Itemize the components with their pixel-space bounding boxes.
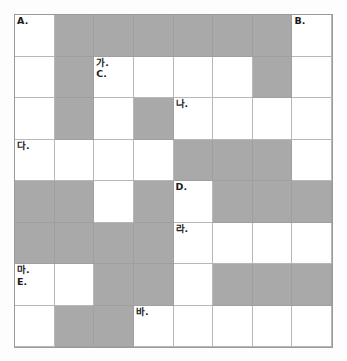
clue-number-label: C. xyxy=(96,68,107,80)
grid-cell-open[interactable] xyxy=(94,140,134,182)
grid-cell-block xyxy=(94,264,134,306)
grid-cell-open[interactable] xyxy=(213,57,253,99)
grid-cell-open[interactable] xyxy=(292,306,332,348)
grid-cell-block xyxy=(55,306,95,348)
grid-cell-open[interactable] xyxy=(213,223,253,265)
grid-cell-open[interactable]: 마.E. xyxy=(15,264,55,306)
grid-cell-open[interactable] xyxy=(15,98,55,140)
grid-cell-open[interactable]: D. xyxy=(174,181,214,223)
grid-cell-open[interactable] xyxy=(253,98,293,140)
grid-cell-block xyxy=(55,57,95,99)
cell-label-group: 라. xyxy=(176,223,189,235)
grid-cell-open[interactable] xyxy=(55,140,95,182)
grid-cell-block xyxy=(213,181,253,223)
grid-cell-block xyxy=(253,15,293,57)
grid-cell-open[interactable]: 나. xyxy=(174,98,214,140)
grid-cell-block xyxy=(94,223,134,265)
grid-cell-block xyxy=(15,181,55,223)
grid-cell-block xyxy=(213,15,253,57)
clue-number-label: B. xyxy=(294,15,305,27)
grid-cell-block xyxy=(174,140,214,182)
clue-number-label: A. xyxy=(17,15,28,27)
grid-cell-open[interactable] xyxy=(292,140,332,182)
grid-cell-open[interactable] xyxy=(292,223,332,265)
crossword-grid: A.B.가.C.나.다.D.라.마.E.바. xyxy=(14,14,333,348)
clue-number-label: 가. xyxy=(96,57,109,69)
grid-cell-open[interactable] xyxy=(174,264,214,306)
cell-label-group: 마.E. xyxy=(17,264,30,287)
grid-cell-block xyxy=(94,306,134,348)
grid-cell-block xyxy=(134,223,174,265)
grid-cell-open[interactable] xyxy=(292,57,332,99)
cell-label-group: 바. xyxy=(136,306,149,318)
cell-label-group: D. xyxy=(176,181,188,193)
cell-label-group: 다. xyxy=(17,140,30,152)
cell-label-group: 나. xyxy=(176,98,189,110)
grid-cell-block xyxy=(253,264,293,306)
grid-cell-block xyxy=(55,181,95,223)
grid-cell-open[interactable] xyxy=(174,57,214,99)
clue-number-label: 다. xyxy=(17,140,30,152)
grid-cell-open[interactable] xyxy=(15,57,55,99)
grid-cell-open[interactable] xyxy=(94,98,134,140)
grid-cell-block xyxy=(253,181,293,223)
cell-label-group: 가.C. xyxy=(96,57,109,80)
grid-cell-open[interactable] xyxy=(213,98,253,140)
grid-cell-open[interactable] xyxy=(174,306,214,348)
grid-cell-open[interactable] xyxy=(253,306,293,348)
grid-cell-block xyxy=(134,264,174,306)
cell-label-group: B. xyxy=(294,15,305,27)
grid-cell-open[interactable] xyxy=(134,140,174,182)
grid-cell-open[interactable]: 가.C. xyxy=(94,57,134,99)
clue-number-label: 라. xyxy=(176,223,189,235)
grid-cell-open[interactable]: 바. xyxy=(134,306,174,348)
grid-cell-block xyxy=(292,181,332,223)
grid-cell-block xyxy=(292,264,332,306)
grid-cell-block xyxy=(134,98,174,140)
grid-cell-block xyxy=(174,15,214,57)
grid-cell-block xyxy=(134,15,174,57)
clue-number-label: 나. xyxy=(176,98,189,110)
clue-number-label: 바. xyxy=(136,306,149,318)
cell-label-group: A. xyxy=(17,15,28,27)
grid-cell-open[interactable] xyxy=(94,181,134,223)
grid-cell-open[interactable]: B. xyxy=(292,15,332,57)
grid-cell-open[interactable] xyxy=(134,57,174,99)
grid-cell-open[interactable] xyxy=(15,306,55,348)
grid-cell-block xyxy=(213,264,253,306)
grid-cell-open[interactable]: 라. xyxy=(174,223,214,265)
grid-cell-block xyxy=(94,15,134,57)
grid-cell-open[interactable]: 다. xyxy=(15,140,55,182)
grid-cell-open[interactable] xyxy=(253,223,293,265)
grid-cell-block xyxy=(253,57,293,99)
clue-number-label: E. xyxy=(17,276,27,288)
grid-cell-block xyxy=(55,223,95,265)
grid-cell-block xyxy=(134,181,174,223)
grid-cell-block xyxy=(55,15,95,57)
grid-cell-block xyxy=(213,140,253,182)
grid-cell-block xyxy=(55,98,95,140)
grid-cell-open[interactable] xyxy=(292,98,332,140)
clue-number-label: 마. xyxy=(17,264,30,276)
grid-cell-open[interactable] xyxy=(55,264,95,306)
grid-cell-block xyxy=(253,140,293,182)
grid-cell-open[interactable]: A. xyxy=(15,15,55,57)
crossword-puzzle-page: A.B.가.C.나.다.D.라.마.E.바. xyxy=(0,0,347,361)
grid-cell-open[interactable] xyxy=(213,306,253,348)
clue-number-label: D. xyxy=(176,181,188,193)
grid-cell-block xyxy=(15,223,55,265)
